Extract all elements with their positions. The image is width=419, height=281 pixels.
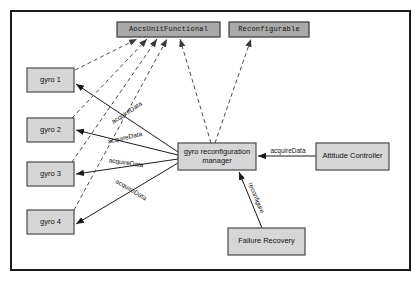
node-label-gyro_reconfiguration_manager: gyro reconfiguration	[184, 147, 250, 156]
node-label-reconfigurable: Reconfigurable	[238, 25, 300, 33]
node-gyro_1[interactable]: gyro 1	[27, 68, 74, 92]
edge-label-controller_to_mgr: acquireData	[270, 147, 305, 155]
node-gyro_2[interactable]: gyro 2	[27, 118, 74, 142]
node-aocs_unit_functional[interactable]: AocsUnitFunctional	[117, 22, 220, 37]
node-gyro_4[interactable]: gyro 4	[27, 210, 74, 234]
node-attitude_controller[interactable]: Attitude Controller	[316, 143, 389, 170]
node-failure_recovery[interactable]: Failure Recovery	[228, 228, 305, 255]
diagram-canvas: AocsUnitFunctionalReconfigurablegyro 1gy…	[0, 0, 419, 281]
node-label-failure_recovery: Failure Recovery	[238, 236, 295, 245]
node-label-gyro_2: gyro 2	[40, 125, 61, 134]
node-gyro_3[interactable]: gyro 3	[27, 162, 74, 186]
node-label-aocs_unit_functional: AocsUnitFunctional	[129, 25, 208, 33]
structure-diagram: AocsUnitFunctionalReconfigurablegyro 1gy…	[0, 0, 419, 281]
node-label-gyro_3: gyro 3	[40, 169, 61, 178]
node-gyro_reconfiguration_manager[interactable]: gyro reconfigurationmanager	[178, 143, 256, 170]
node-label-gyro_reconfiguration_manager: manager	[202, 156, 232, 165]
node-label-attitude_controller: Attitude Controller	[322, 151, 383, 160]
node-reconfigurable[interactable]: Reconfigurable	[229, 22, 309, 37]
node-label-gyro_4: gyro 4	[40, 217, 61, 226]
node-label-gyro_1: gyro 1	[40, 75, 61, 84]
